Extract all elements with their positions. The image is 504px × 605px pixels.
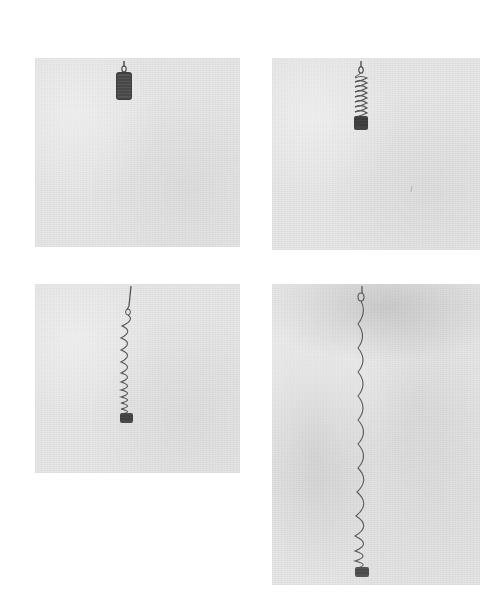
compressed-spring-icon — [35, 58, 240, 247]
panel-extended-spring — [35, 284, 240, 473]
panel-fully-extended-spring — [272, 284, 480, 585]
spring-extension-figure — [0, 0, 504, 605]
panel-slightly-extended-spring — [272, 58, 480, 250]
slightly-extended-spring-icon — [272, 58, 480, 250]
extended-spring-icon — [35, 284, 240, 473]
panel-compressed-spring — [35, 58, 240, 247]
fully-extended-spring-icon — [272, 284, 480, 585]
